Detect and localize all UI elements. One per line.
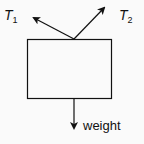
free-body-diagram: T1 T2 weight: [0, 0, 144, 144]
tension-t1-arrow: [34, 18, 74, 39]
tension-t2-arrow: [74, 8, 104, 39]
tension-t1-label: T1: [4, 7, 18, 25]
weight-label: weight: [82, 118, 121, 133]
body-box: [28, 40, 112, 99]
tension-t2-label: T2: [119, 7, 133, 25]
